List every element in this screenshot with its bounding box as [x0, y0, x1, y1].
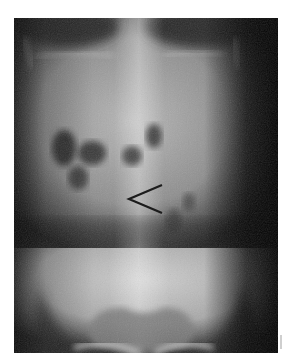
- radiograph-svg: [14, 18, 278, 353]
- edge-mark: [280, 335, 282, 349]
- xray-image: [14, 18, 278, 353]
